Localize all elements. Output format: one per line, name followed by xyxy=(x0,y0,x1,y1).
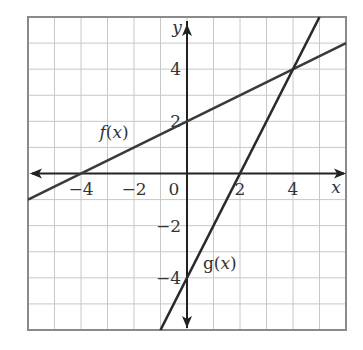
x-axis-label: x xyxy=(331,177,341,197)
y-axis-label: y xyxy=(171,17,182,37)
x-tick-label: 4 xyxy=(288,179,299,199)
y-tick-label: 4 xyxy=(170,59,181,79)
coordinate-plane: −4−202442−2−4xy f(x)g(x) xyxy=(0,0,363,350)
x-tick-label: −2 xyxy=(121,179,146,199)
y-tick-label: −2 xyxy=(156,216,181,236)
label-f: f(x) xyxy=(98,122,129,142)
y-tick-label: −4 xyxy=(156,268,181,288)
x-tick-label: 0 xyxy=(169,179,180,199)
series-labels: f(x)g(x) xyxy=(98,122,237,272)
x-tick-label: −4 xyxy=(68,179,93,199)
label-g: g(x) xyxy=(203,253,237,273)
